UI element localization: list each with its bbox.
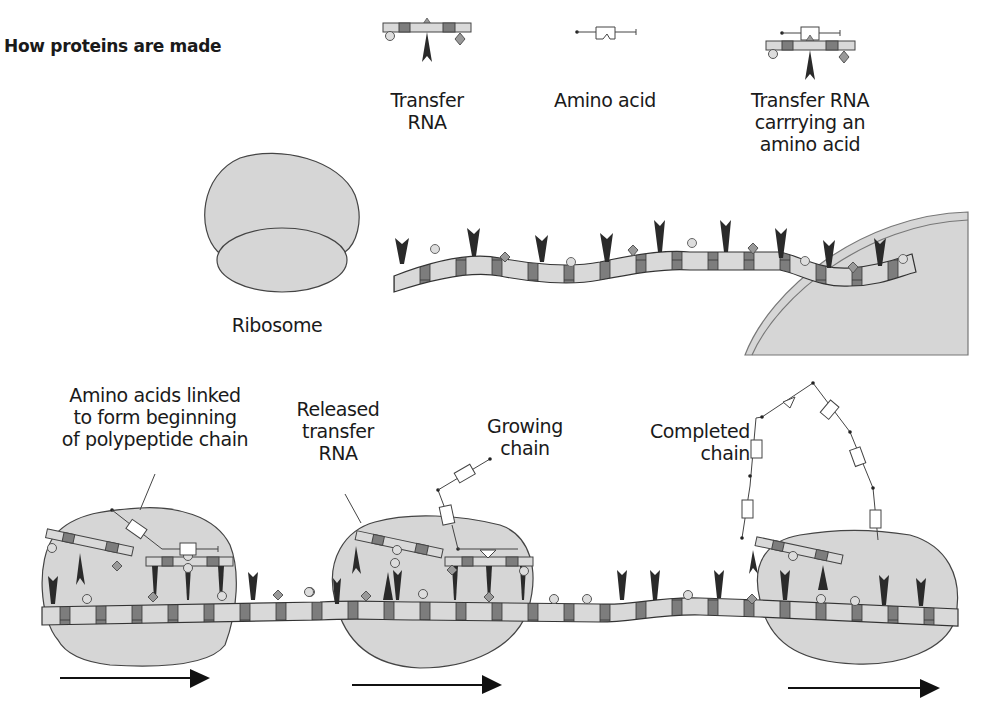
direction-arrow-3	[788, 679, 940, 698]
legend-amino-acid-icon	[575, 27, 636, 39]
direction-arrow-1	[60, 669, 210, 688]
ribosome-icon	[205, 153, 359, 292]
diagram-canvas	[0, 0, 988, 717]
legend-trna-carrying-icon	[766, 27, 855, 80]
legend-transfer-rna-icon	[383, 18, 471, 62]
direction-arrow-2	[352, 675, 502, 694]
